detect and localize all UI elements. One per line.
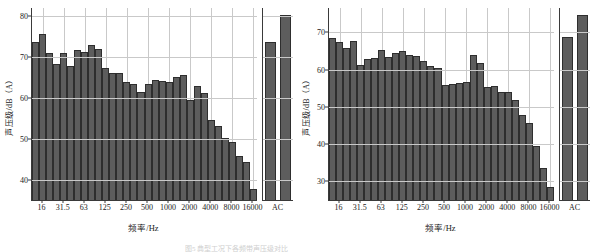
bar [498, 92, 505, 200]
bar [350, 41, 357, 200]
bar [250, 189, 257, 200]
x-tick-mark [507, 200, 508, 203]
y-axis-ticks: 4050607080 [14, 8, 31, 200]
x-tick-label: 1000 [160, 203, 176, 212]
bar [336, 42, 343, 200]
x-tick-label: 250 [120, 203, 132, 212]
x-tick-label: 8000 [520, 203, 536, 212]
bar [222, 138, 229, 200]
bar-series-frequency [329, 8, 554, 200]
x-axis-line-main [31, 200, 257, 201]
y-tick-label: 60 [20, 93, 28, 102]
x-axis-ticks: 1631.563125250500100020004000800016000 [328, 203, 553, 215]
x-tick-mark [401, 200, 402, 203]
bar [540, 168, 547, 200]
x-tick-mark [62, 200, 63, 203]
x-tick-mark [252, 200, 253, 203]
x-tick-mark [338, 200, 339, 203]
x-tick-mark [465, 200, 466, 203]
grid-line-horizontal [32, 16, 257, 17]
chart-panel-left: 声压级/dB（A） 4050607080 1631.56312525050010… [0, 0, 296, 252]
bar [343, 48, 350, 200]
y-tick-label: 50 [317, 102, 325, 111]
grid-line-horizontal [560, 107, 590, 108]
bar [413, 56, 420, 200]
grid-line-horizontal [560, 32, 590, 33]
bar-ac-a [562, 37, 573, 200]
x-axis-title: 频率/Hz [328, 221, 553, 233]
y-axis-title: 声压级/dB（A） [298, 30, 312, 180]
bar [137, 92, 144, 200]
x-tick-label: 500 [438, 203, 450, 212]
plot-area-ac-total [262, 8, 293, 200]
bar-series-ac [263, 8, 293, 200]
grid-line-horizontal [263, 16, 293, 17]
x-tick-mark [486, 200, 487, 203]
x-tick-label: 63 [80, 203, 88, 212]
x-axis-line-main [328, 200, 554, 201]
plot-area-frequency-bands [328, 8, 554, 200]
bar [505, 92, 512, 200]
bar [420, 61, 427, 200]
grid-line-horizontal [560, 181, 590, 182]
bar [236, 156, 243, 200]
bar [46, 53, 53, 200]
chart-panel-right: 声压级/dB（A） 3040506070 1631.56312525050010… [297, 0, 593, 252]
bar [81, 52, 88, 200]
x-tick-mark [189, 200, 190, 203]
bar [39, 34, 46, 200]
bar [519, 115, 526, 200]
grid-line-horizontal [560, 70, 590, 71]
grid-line-horizontal [263, 57, 293, 58]
x-tick-label: 8000 [223, 203, 239, 212]
x-tick-label: 16 [335, 203, 343, 212]
x-tick-label: 63 [377, 203, 385, 212]
grid-line-horizontal [329, 107, 554, 108]
bar [378, 50, 385, 200]
bar [60, 53, 67, 200]
bar [477, 63, 484, 200]
bar [526, 123, 533, 200]
plot-area-ac-total [559, 8, 590, 200]
bar [32, 42, 39, 200]
y-axis-ticks: 3040506070 [311, 8, 328, 200]
bar [357, 65, 364, 200]
figure-caption: 图5 典型工况下各频带声压级对比 [185, 243, 585, 252]
x-tick-mark [41, 200, 42, 203]
grid-line-horizontal [32, 98, 257, 99]
y-tick-label: 70 [20, 53, 28, 62]
bar [116, 73, 123, 200]
grid-line-horizontal [329, 70, 554, 71]
bar [243, 162, 250, 200]
bar [194, 86, 201, 200]
bar [208, 120, 215, 200]
x-tick-mark [104, 200, 105, 203]
bar [229, 142, 236, 200]
grid-line-horizontal [329, 144, 554, 145]
x-axis-ticks: 1631.563125250500100020004000800016000 [31, 203, 256, 215]
bar [329, 38, 336, 200]
grid-line-horizontal [329, 181, 554, 182]
x-tick-label: 125 [396, 203, 408, 212]
x-tick-label: 1000 [457, 203, 473, 212]
bar [427, 66, 434, 200]
y-tick-label: 40 [317, 140, 325, 149]
bar [180, 75, 187, 200]
bar [456, 83, 463, 200]
bar [201, 93, 208, 200]
bar [371, 58, 378, 200]
x-tick-mark [380, 200, 381, 203]
bar [364, 59, 371, 200]
bar [399, 51, 406, 200]
x-tick-ac: AC [559, 203, 590, 212]
bar-series-ac [560, 8, 590, 200]
bar [187, 100, 194, 200]
x-tick-label: 4000 [202, 203, 218, 212]
bar-series-frequency [32, 8, 257, 200]
y-tick-label: 70 [317, 28, 325, 37]
x-tick-label: 2000 [478, 203, 494, 212]
x-tick-mark [528, 200, 529, 203]
bar [547, 187, 554, 200]
x-tick-mark [210, 200, 211, 203]
figure-container: 声压级/dB（A） 4050607080 1631.56312525050010… [0, 0, 593, 252]
